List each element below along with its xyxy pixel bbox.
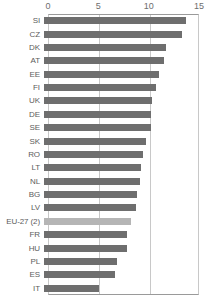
x-tick-label-15: 15 [194,1,204,11]
bar-cell [44,175,210,188]
bar-cell [44,188,210,201]
x-axis-tick-labels: 051015 [0,0,210,14]
bar-row: DK [0,41,210,54]
bar-hu [44,245,127,252]
category-label-ee: EE [0,70,44,79]
bar-cell [44,54,210,67]
bar-row: LV [0,201,210,214]
bar-lv [44,204,136,211]
category-label-lv: LV [0,203,44,212]
bar-dk [44,44,166,51]
bar-si [44,17,186,24]
bar-row: NL [0,175,210,188]
bar-cell [44,14,210,27]
category-label-fi: FI [0,83,44,92]
bar-cell [44,68,210,81]
category-label-bg: BG [0,190,44,199]
bar-row: ES [0,268,210,281]
bar-row: CZ [0,27,210,40]
category-label-cz: CZ [0,30,44,39]
bar-row: RO [0,148,210,161]
bar-rows: SICZDKATEEFIUKDESESKROLTNLBGLVEU-27 (2)F… [0,14,210,295]
bar-row: FI [0,81,210,94]
bar-lt [44,164,141,171]
bar-cell [44,255,210,268]
x-tick-label-5: 5 [96,1,101,11]
bar-cell [44,201,210,214]
category-label-se: SE [0,123,44,132]
category-label-sk: SK [0,137,44,146]
category-label-eu-27-2: EU-27 (2) [0,217,44,226]
category-label-de: DE [0,110,44,119]
bar-cell [44,282,210,295]
bar-at [44,57,164,64]
bar-row: LT [0,161,210,174]
bar-row: UK [0,94,210,107]
category-label-pl: PL [0,257,44,266]
bar-cell [44,121,210,134]
bar-row: DE [0,108,210,121]
bar-row: SK [0,134,210,147]
bar-row: PL [0,255,210,268]
bar-uk [44,97,152,104]
bar-row: HU [0,241,210,254]
bar-nl [44,178,140,185]
category-label-uk: UK [0,96,44,105]
bar-row: FR [0,228,210,241]
bar-cell [44,94,210,107]
category-label-es: ES [0,270,44,279]
bar-cell [44,148,210,161]
bar-ro [44,151,143,158]
x-tick-label-0: 0 [45,1,50,11]
bar-cell [44,215,210,228]
bar-cz [44,31,182,38]
category-label-hu: HU [0,244,44,253]
bar-es [44,271,115,278]
category-label-ro: RO [0,150,44,159]
bar-cell [44,41,210,54]
bar-pl [44,258,117,265]
x-tick-label-10: 10 [144,1,154,11]
category-label-lt: LT [0,163,44,172]
bar-row: BG [0,188,210,201]
bar-cell [44,241,210,254]
bar-row: AT [0,54,210,67]
category-label-it: IT [0,284,44,293]
category-label-nl: NL [0,177,44,186]
bar-row: EE [0,68,210,81]
bar-sk [44,138,146,145]
bar-cell [44,27,210,40]
bar-cell [44,134,210,147]
category-label-si: SI [0,16,44,25]
bar-bg [44,191,137,198]
bar-cell [44,228,210,241]
bar-fr [44,231,127,238]
bar-cell [44,108,210,121]
bar-it [44,285,99,292]
bar-cell [44,161,210,174]
category-label-fr: FR [0,230,44,239]
category-label-at: AT [0,56,44,65]
bar-fi [44,84,156,91]
bar-row: SI [0,14,210,27]
bar-ee [44,71,159,78]
bar-cell [44,268,210,281]
bar-row: EU-27 (2) [0,215,210,228]
bar-chart: 051015 SICZDKATEEFIUKDESESKROLTNLBGLVEU-… [0,0,210,303]
bar-de [44,111,151,118]
bar-row: SE [0,121,210,134]
bar-se [44,124,151,131]
category-label-dk: DK [0,43,44,52]
bar-cell [44,81,210,94]
bar-eu-27-2 [44,218,131,225]
bar-row: IT [0,282,210,295]
